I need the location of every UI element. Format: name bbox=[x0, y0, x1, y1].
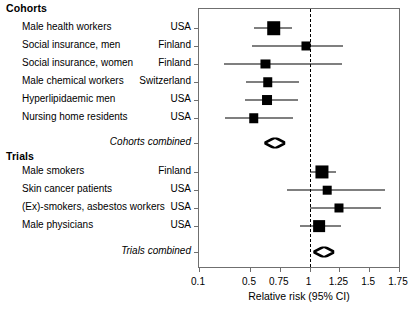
effect-size-box bbox=[315, 165, 328, 178]
summary-diamond bbox=[264, 138, 285, 149]
study-country: USA bbox=[0, 111, 191, 122]
x-tick-label: 1.5 bbox=[361, 276, 375, 287]
x-tick-label: 0.75 bbox=[269, 276, 288, 287]
summary-diamond bbox=[313, 247, 334, 258]
effect-size-box bbox=[301, 41, 310, 50]
confidence-interval-line bbox=[287, 190, 385, 191]
effect-size-box bbox=[263, 77, 273, 87]
x-tick-label: 1 bbox=[306, 276, 312, 287]
x-tick bbox=[280, 267, 281, 272]
row-tick bbox=[194, 226, 199, 227]
row-tick bbox=[194, 64, 199, 65]
x-tick-label: 1.75 bbox=[388, 276, 407, 287]
row-tick bbox=[194, 100, 199, 101]
effect-size-box bbox=[249, 113, 259, 123]
x-tick bbox=[199, 267, 200, 272]
summary-label: Cohorts combined bbox=[0, 136, 191, 147]
study-country: Finland bbox=[0, 39, 191, 50]
row-tick bbox=[194, 208, 199, 209]
x-tick bbox=[250, 267, 251, 272]
x-tick-label: 0.5 bbox=[242, 276, 256, 287]
x-tick bbox=[369, 267, 370, 272]
group-heading-cohorts: Cohorts bbox=[6, 2, 47, 14]
row-tick bbox=[194, 46, 199, 47]
study-country: Finland bbox=[0, 165, 191, 176]
confidence-interval-line bbox=[252, 46, 343, 47]
effect-size-box bbox=[267, 21, 281, 35]
x-tick-label: 1.25 bbox=[329, 276, 348, 287]
x-tick-label: 0.1 bbox=[191, 276, 205, 287]
row-tick bbox=[194, 172, 199, 173]
row-tick bbox=[194, 143, 199, 144]
confidence-interval-line bbox=[246, 82, 298, 83]
row-tick bbox=[194, 190, 199, 191]
study-country: USA bbox=[0, 183, 191, 194]
study-country: Finland bbox=[0, 57, 191, 68]
effect-size-box bbox=[313, 220, 325, 232]
study-country: USA bbox=[0, 219, 191, 230]
study-country: Switzerland bbox=[0, 75, 191, 86]
forest-plot-figure: Cohorts Trials Male health workersUSASoc… bbox=[0, 0, 418, 311]
study-country: USA bbox=[0, 93, 191, 104]
x-tick bbox=[399, 267, 400, 272]
effect-size-box bbox=[335, 203, 344, 212]
plot-area bbox=[198, 8, 400, 268]
summary-label: Trials combined bbox=[0, 245, 191, 256]
effect-size-box bbox=[323, 186, 332, 195]
effect-size-box bbox=[261, 59, 270, 68]
x-tick bbox=[339, 267, 340, 272]
study-country: USA bbox=[0, 21, 191, 32]
row-tick bbox=[194, 82, 199, 83]
confidence-interval-line bbox=[225, 118, 293, 119]
study-country: USA bbox=[0, 201, 191, 212]
confidence-interval-line bbox=[310, 208, 382, 209]
confidence-interval-line bbox=[224, 64, 342, 65]
effect-size-box bbox=[262, 95, 272, 105]
row-tick bbox=[194, 118, 199, 119]
x-tick bbox=[310, 267, 311, 272]
row-tick bbox=[194, 28, 199, 29]
group-heading-trials: Trials bbox=[6, 150, 34, 162]
x-axis-title: Relative risk (95% CI) bbox=[198, 290, 400, 302]
row-tick bbox=[194, 252, 199, 253]
